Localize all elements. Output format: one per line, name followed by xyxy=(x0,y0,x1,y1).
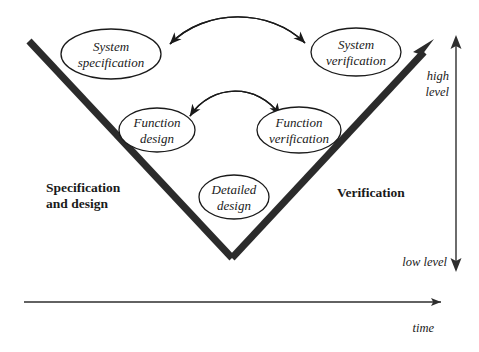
node-label-line1: Function xyxy=(133,115,181,130)
v-right-arm-verification xyxy=(232,52,424,258)
node-label-line1: Detailed xyxy=(211,182,257,197)
diagram-canvas: System specification System verification… xyxy=(0,0,479,352)
node-system-specification[interactable]: System specification xyxy=(61,29,161,79)
node-label-line2: design xyxy=(217,198,251,213)
phase-label-verification: Verification xyxy=(337,185,405,200)
node-function-design[interactable]: Function design xyxy=(119,108,195,152)
phase-label-specification-and-design: Specification and design xyxy=(46,180,121,211)
node-ellipse xyxy=(257,107,341,153)
node-ellipse xyxy=(61,29,161,79)
arc-group xyxy=(170,17,305,116)
system-arc-right-head xyxy=(170,17,305,44)
node-label-line2: verification xyxy=(326,53,386,68)
node-detailed-design[interactable]: Detailed design xyxy=(199,175,269,219)
function-arc-right-head xyxy=(190,91,280,116)
node-function-verification[interactable]: Function verification xyxy=(257,107,341,153)
axis-label-time: time xyxy=(412,321,434,335)
node-ellipse xyxy=(311,28,401,76)
system-arc-left-head xyxy=(170,17,305,44)
axis-label-high-line2: level xyxy=(425,85,449,99)
node-system-verification[interactable]: System verification xyxy=(311,28,401,76)
v-model-diagram: System specification System verification… xyxy=(0,0,479,352)
function-arc-left-head xyxy=(190,91,280,116)
horizontal-time-axis: time xyxy=(24,302,441,335)
node-label-line2: specification xyxy=(78,55,144,70)
node-label-line1: System xyxy=(93,39,129,54)
node-label-line2: verification xyxy=(269,131,329,146)
phase-label-line1: Specification xyxy=(46,180,121,195)
phase-label-line2: and design xyxy=(46,196,108,211)
node-label-line1: Function xyxy=(275,115,323,130)
phase-label-line1: Verification xyxy=(337,185,405,200)
node-label-line1: System xyxy=(338,37,374,52)
node-label-line2: design xyxy=(140,131,174,146)
axis-label-high-line1: high xyxy=(427,69,449,83)
axis-label-low-level: low level xyxy=(402,255,447,269)
